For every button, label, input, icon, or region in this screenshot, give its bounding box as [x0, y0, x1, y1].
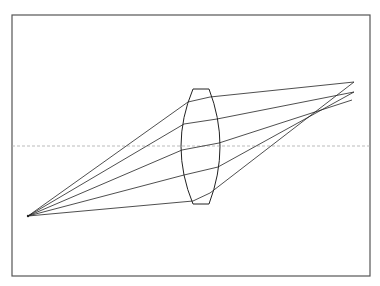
light-ray-1 — [28, 82, 354, 216]
lens-ray-diagram — [0, 0, 380, 286]
light-ray-2 — [28, 92, 354, 216]
diagram-frame — [12, 15, 370, 276]
light-ray-4 — [28, 92, 354, 216]
light-ray-3 — [28, 100, 352, 216]
light-ray-5 — [28, 82, 354, 216]
light-rays — [28, 82, 354, 216]
point-source — [27, 215, 29, 217]
